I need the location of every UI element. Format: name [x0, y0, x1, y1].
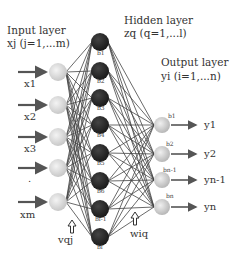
input-node: [49, 128, 67, 146]
hidden-layer-title: Hidden layer: [124, 14, 193, 26]
output-node: [154, 117, 170, 133]
output-bias-bn-1: bn-1: [163, 166, 177, 173]
output-bias-b1: b1: [168, 112, 176, 119]
output-label-yn: yn: [204, 201, 216, 212]
input-layer-subtitle: xj (j=1,...m): [7, 37, 70, 49]
input-node: [49, 96, 67, 114]
hidden-bias-b5: b5: [97, 159, 105, 166]
output-label-y2: y2: [204, 148, 216, 159]
hidden-bias-b3: b3: [97, 104, 105, 111]
input-node: [49, 159, 67, 177]
input-label-x1: x1: [24, 78, 36, 89]
hidden-layer-subtitle: zq (q=1,...l): [124, 27, 187, 39]
output-label-yn-1: yn-1: [204, 174, 226, 185]
input-node: [49, 193, 67, 211]
output-node: [154, 146, 170, 162]
output-layer-title: Output layer: [161, 56, 228, 68]
output-node: [154, 199, 170, 215]
output-node: [154, 172, 170, 188]
input-label-x2: x2: [24, 111, 36, 122]
input-label-xm: xm: [20, 209, 35, 220]
hidden-bias-b4: b4: [97, 131, 105, 138]
hidden-bias-b1: b1: [97, 49, 105, 56]
output-bias-bn: bn: [166, 192, 174, 199]
hidden-bias-b2: b2: [97, 77, 105, 84]
hidden-bias-b6: b6: [97, 187, 105, 194]
output-label-y1: y1: [204, 119, 216, 130]
input-layer-title: Input layer: [7, 24, 66, 36]
hidden-bias-bl: bl: [97, 243, 103, 250]
output-bias-b2: b2: [166, 140, 174, 147]
weight-label-wiq: wiq: [130, 228, 148, 239]
connections: [66, 42, 154, 237]
hidden-bias-bl-1: bl-1: [95, 215, 107, 222]
input-label-x3: x3: [24, 143, 36, 154]
output-layer-subtitle: yi (i=1,...n): [161, 70, 221, 82]
input-label-ellipsis: .: [28, 173, 31, 184]
input-node: [49, 63, 67, 81]
weight-label-vqj: vqj: [58, 234, 73, 245]
